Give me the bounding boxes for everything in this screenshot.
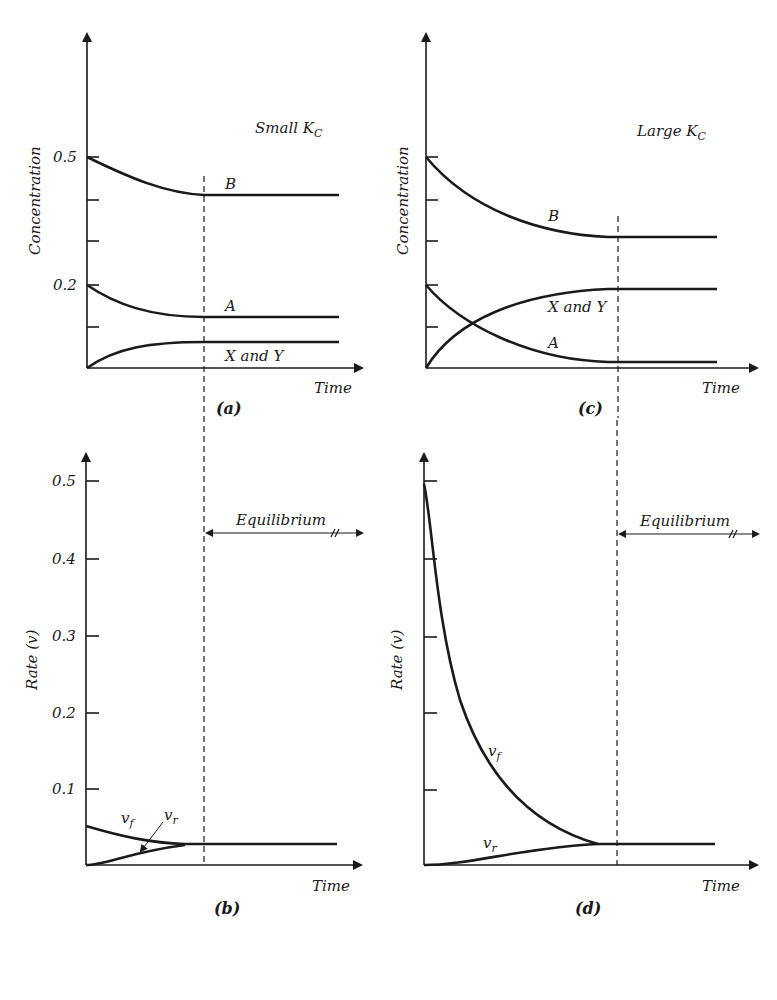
y-ticks <box>426 157 438 327</box>
x-axis-label: Time <box>702 877 740 895</box>
caption-a: (a) <box>216 399 242 418</box>
curve-vr <box>424 844 598 865</box>
label-A: A <box>223 297 236 315</box>
y-axis-label: Concentration <box>394 146 412 255</box>
label-X-and-Y: X and Y <box>547 298 608 316</box>
equilibrium-label: Equilibrium <box>235 511 326 529</box>
panel-b: 0.5 0.4 0.3 0.2 0.1 Rate (v) Time vf vr … <box>23 454 362 918</box>
tick-label: 0.2 <box>53 276 77 294</box>
label-A: A <box>546 334 559 352</box>
annotation-large-kc: Large KC <box>636 122 707 143</box>
equilibrium-label: Equilibrium <box>639 512 730 530</box>
label-vr: vr <box>483 834 497 855</box>
y-axis-label: Rate (v) <box>23 629 41 691</box>
annotation-small-kc: Small KC <box>255 119 323 140</box>
label-vf: vf <box>121 809 135 830</box>
y-axis-label: Concentration <box>26 146 44 255</box>
curve-B <box>426 157 717 237</box>
label-B: B <box>547 207 559 225</box>
label-B: B <box>224 175 236 193</box>
figure: 0.5 0.2 Concentration Time Small KC B A … <box>0 0 777 1000</box>
panel-d: Rate (v) Time vf vr Equilibrium (d) <box>388 420 758 918</box>
panel-c: Concentration Time Large KC B X and Y A … <box>394 34 757 418</box>
tick-label: 0.5 <box>52 472 76 490</box>
panel-a: 0.5 0.2 Concentration Time Small KC B A … <box>26 34 362 418</box>
curve-A <box>87 285 339 317</box>
caption-c: (c) <box>578 399 603 418</box>
y-axis-label: Rate (v) <box>388 629 406 691</box>
y-ticks <box>87 157 99 327</box>
label-X-and-Y: X and Y <box>224 347 285 365</box>
pointer-arrow <box>141 822 163 851</box>
curve-B <box>87 157 339 195</box>
x-axis-label: Time <box>702 379 740 397</box>
x-axis-label: Time <box>312 877 350 895</box>
curve-vr <box>86 845 185 865</box>
curve-vf <box>86 826 337 844</box>
curve-X-and-Y <box>87 342 339 368</box>
curve-vf <box>424 484 715 844</box>
tick-label: 0.5 <box>53 148 77 166</box>
label-vf: vf <box>488 742 502 763</box>
tick-label: 0.3 <box>52 627 76 645</box>
x-axis-label: Time <box>314 379 352 397</box>
tick-label: 0.1 <box>52 780 76 798</box>
tick-label: 0.4 <box>52 550 76 568</box>
tick-label: 0.2 <box>52 704 76 722</box>
y-ticks <box>86 481 99 789</box>
curve-A <box>426 285 717 362</box>
caption-d: (d) <box>575 899 601 918</box>
caption-b: (b) <box>214 899 240 918</box>
label-vr: vr <box>164 806 178 827</box>
